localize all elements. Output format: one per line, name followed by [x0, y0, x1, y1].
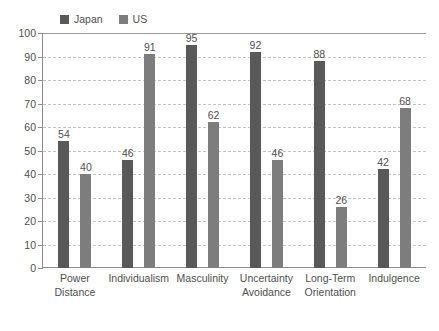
bar-japan-power-distance[interactable]: 54 [58, 141, 69, 268]
bar-group: 4268 [362, 33, 426, 268]
bar-group: 9246 [235, 33, 299, 268]
y-axis-tick-label: 0 [30, 263, 36, 273]
legend-item-japan[interactable]: Japan [60, 14, 103, 24]
bar-group: 4691 [107, 33, 171, 268]
x-axis-label-line: Masculinity [177, 272, 229, 284]
bar-us-uncertainty-avoidance[interactable]: 46 [272, 160, 283, 268]
bar-us-power-distance[interactable]: 40 [80, 174, 91, 268]
bar-value-label: 68 [399, 96, 411, 106]
chart-legend: JapanUS [60, 12, 147, 26]
x-axis-label-line: Power [60, 272, 90, 284]
bar-value-label: 40 [80, 162, 92, 172]
x-axis-label-indulgence: Indulgence [362, 271, 426, 285]
y-axis-tick-label: 50 [24, 146, 36, 156]
x-axis-label-power-distance: PowerDistance [43, 271, 107, 299]
bar-value-label: 62 [208, 110, 220, 120]
x-axis-label-long-term-orientation: Long-TermOrientation [298, 271, 362, 299]
y-axis-tick-label: 70 [24, 99, 36, 109]
y-axis-tick-label: 60 [24, 122, 36, 132]
bar-value-label: 92 [250, 40, 262, 50]
bar-japan-individualism[interactable]: 46 [122, 160, 133, 268]
bar-us-individualism[interactable]: 91 [144, 54, 155, 268]
x-axis-label-individualism: Individualism [107, 271, 171, 285]
bar-japan-indulgence[interactable]: 42 [378, 169, 389, 268]
bar-us-indulgence[interactable]: 68 [400, 108, 411, 268]
bar-japan-long-term-orientation[interactable]: 88 [314, 61, 325, 268]
legend-label: Japan [74, 14, 103, 24]
y-axis-tick-label: 40 [24, 169, 36, 179]
y-axis-tick-label: 20 [24, 216, 36, 226]
x-axis-label-line: Orientation [298, 285, 362, 299]
legend-label: US [133, 14, 148, 24]
bar-value-label: 88 [313, 49, 325, 59]
bar-group: 8826 [298, 33, 362, 268]
bar-value-label: 26 [335, 195, 347, 205]
bar-value-label: 46 [272, 148, 284, 158]
x-axis-label-line: Distance [43, 285, 107, 299]
bar-group: 9562 [171, 33, 235, 268]
x-axis-category-labels: PowerDistanceIndividualismMasculinityUnc… [43, 271, 426, 319]
bar-value-label: 95 [186, 33, 198, 43]
y-axis-tick-label: 90 [24, 52, 36, 62]
x-axis-label-uncertainty-avoidance: UncertaintyAvoidance [235, 271, 299, 299]
bar-value-label: 42 [377, 157, 389, 167]
bars-layer: 544046919562924688264268 [43, 33, 426, 268]
x-axis-label-masculinity: Masculinity [171, 271, 235, 285]
y-axis-tick-label: 100 [18, 28, 36, 38]
bar-group: 5440 [43, 33, 107, 268]
legend-item-us[interactable]: US [119, 14, 148, 24]
legend-swatch-icon [60, 15, 69, 24]
bar-us-masculinity[interactable]: 62 [208, 122, 219, 268]
bar-chart: JapanUS 1009080706050403020100 544046919… [0, 0, 439, 331]
bar-us-long-term-orientation[interactable]: 26 [336, 207, 347, 268]
bar-japan-masculinity[interactable]: 95 [186, 45, 197, 268]
bar-value-label: 54 [58, 129, 70, 139]
x-axis-label-line: Indulgence [368, 272, 419, 284]
x-axis-label-line: Uncertainty [240, 272, 293, 284]
bar-japan-uncertainty-avoidance[interactable]: 92 [250, 52, 261, 268]
y-axis-tick-label: 80 [24, 75, 36, 85]
y-axis-tick-label: 30 [24, 193, 36, 203]
bar-value-label: 91 [144, 42, 156, 52]
plot-area: 1009080706050403020100 54404691956292468… [42, 33, 426, 268]
y-axis-tick-label: 10 [24, 240, 36, 250]
legend-swatch-icon [119, 15, 128, 24]
bar-value-label: 46 [122, 148, 134, 158]
x-axis-label-line: Long-Term [305, 272, 355, 284]
x-axis-label-line: Individualism [108, 272, 169, 284]
x-axis-label-line: Avoidance [235, 285, 299, 299]
